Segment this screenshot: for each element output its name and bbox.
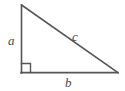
hypotenuse-line — [22, 5, 119, 73]
side-label-b: b — [65, 76, 72, 89]
side-label-c: c — [72, 30, 78, 43]
triangle-drawing — [0, 0, 125, 91]
side-label-a: a — [8, 34, 15, 47]
right-angle-marker-icon — [22, 64, 31, 73]
right-triangle-figure: a c b — [0, 0, 125, 91]
